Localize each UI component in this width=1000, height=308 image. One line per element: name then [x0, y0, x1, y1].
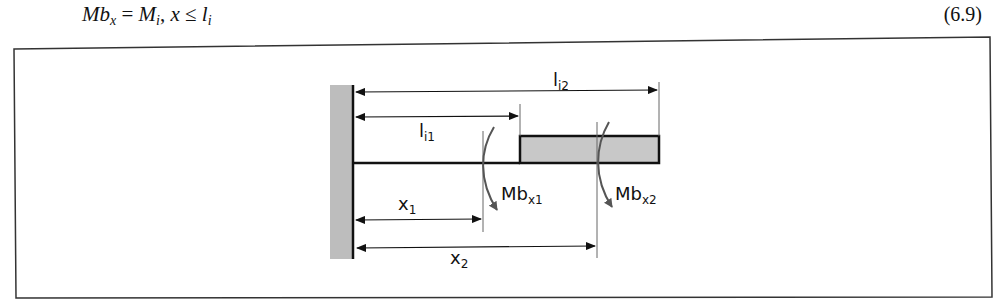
label-mbx1: Mbx1: [501, 183, 543, 207]
label-li1: li1: [419, 120, 435, 144]
moment-arrow-x1: [483, 127, 497, 210]
label-mbx2: Mbx2: [615, 183, 657, 207]
label-x1: x1: [398, 193, 416, 217]
fixed-wall: [330, 85, 352, 259]
label-li2: li2: [553, 69, 569, 93]
dimension-li2: [356, 90, 657, 92]
dimension-x1: [356, 219, 481, 220]
label-x2: x2: [450, 247, 468, 271]
beam-figure: li2 li1 x1 x2 Mbx1 Mbx2: [0, 0, 1000, 308]
figure-frame: [14, 37, 992, 298]
dimension-li1: [356, 116, 518, 117]
dimension-x2: [357, 246, 595, 248]
beam-thick-segment: [520, 136, 659, 163]
